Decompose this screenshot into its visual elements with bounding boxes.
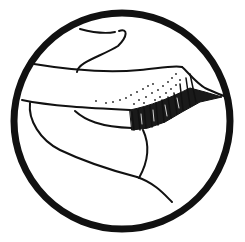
face-line-lower [137,177,172,202]
circle-frame [14,13,230,229]
upper-fold-line [80,29,115,33]
eyelashes [130,67,224,130]
lid-top-edge [34,64,182,71]
lid-bottom-edge [22,100,130,110]
inner-lid-curve [75,111,132,128]
face-line-vertical [139,130,147,178]
face-line-left [30,103,137,177]
upper-curl-line [77,30,126,72]
circular-illustration [0,0,245,242]
